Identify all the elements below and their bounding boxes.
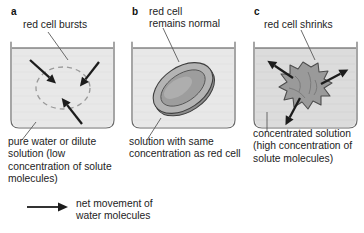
panel-a-solution-fill bbox=[12, 48, 113, 127]
panel-b-caption: solution with same concentration as red … bbox=[129, 136, 245, 161]
legend: net movement of water molecules bbox=[26, 200, 226, 230]
panel-a: a red cell bursts bbox=[2, 0, 123, 190]
panel-b: b red cell remains normal bbox=[123, 0, 244, 190]
panel-a-beaker bbox=[2, 40, 123, 132]
panel-c-caption: concentrated solution (high concentratio… bbox=[253, 128, 363, 165]
panel-c-beaker bbox=[245, 40, 364, 132]
panel-b-beaker bbox=[123, 40, 244, 132]
panel-a-caption: pure water or dilute solution (low conce… bbox=[8, 136, 126, 186]
panel-a-letter: a bbox=[11, 6, 17, 17]
legend-label: net movement of water molecules bbox=[76, 198, 153, 223]
right-arrow-icon bbox=[26, 200, 70, 214]
panel-c-letter: c bbox=[254, 6, 260, 17]
panel-c: c red cell shrinks bbox=[245, 0, 364, 190]
panel-b-letter: b bbox=[132, 6, 138, 17]
panel-b-cell-label: red cell remains normal bbox=[149, 6, 220, 30]
panel-a-cell-label: red cell bursts bbox=[23, 19, 87, 31]
panel-c-cell-label: red cell shrinks bbox=[264, 19, 333, 31]
osmosis-figure: a red cell bursts bbox=[0, 0, 364, 233]
